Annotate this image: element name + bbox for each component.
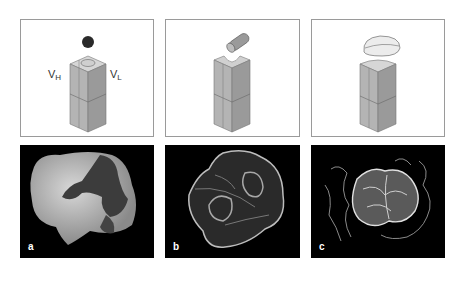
schematic-panel-cylinder <box>165 19 300 137</box>
panel-label-b: b <box>173 241 179 252</box>
schematic-panel-sphere: VH VL <box>20 19 154 137</box>
panel-label-c: c <box>319 241 325 252</box>
vl-label: VL <box>110 68 122 82</box>
antibody-groove-icon <box>166 20 301 138</box>
schematic-panel-disc <box>311 19 445 137</box>
molecule-render-c: c <box>311 145 445 258</box>
molecule-render-a: a <box>20 145 154 258</box>
surface-mesh-model-icon <box>165 145 300 258</box>
space-filling-model-icon <box>20 145 154 258</box>
antibody-block-icon <box>21 20 155 138</box>
vh-label: VH <box>48 68 61 82</box>
molecule-render-b: b <box>165 145 300 258</box>
antibody-concave-icon <box>312 20 446 138</box>
panel-label-a: a <box>28 241 34 252</box>
wire-trace-model-icon <box>311 145 445 258</box>
